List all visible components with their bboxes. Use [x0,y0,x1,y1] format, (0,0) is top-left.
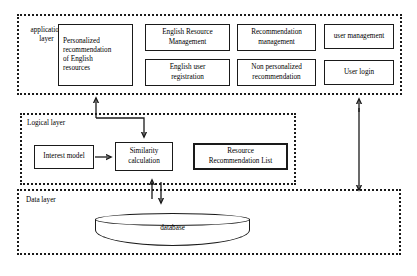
node-non-personalized-recommendation[interactable]: Non personalized recommendation [237,59,316,86]
layer-data-label: Data layer [26,196,56,205]
node-english-user-registration[interactable]: English user registration [145,59,230,86]
node-recommendation-management[interactable]: Recommendation management [237,24,316,51]
node-user-login[interactable]: User login [324,60,394,85]
node-similarity-calculation[interactable]: Similarity calculation [115,142,173,171]
node-user-management[interactable]: user management [324,24,394,49]
node-database[interactable]: database [95,213,250,248]
database-label: database [95,224,250,233]
node-interest-model[interactable]: Interest model [34,145,94,169]
node-english-resource-management[interactable]: English Resource Management [145,24,230,51]
node-personalized-recommendation[interactable]: Personalized recommendation of English r… [58,24,133,86]
node-resource-recommendation-list[interactable]: Resource Recommendation List [193,143,288,170]
architecture-diagram: application layer Personalized recommend… [0,0,417,276]
layer-logical-label: Logical layer [27,119,65,128]
